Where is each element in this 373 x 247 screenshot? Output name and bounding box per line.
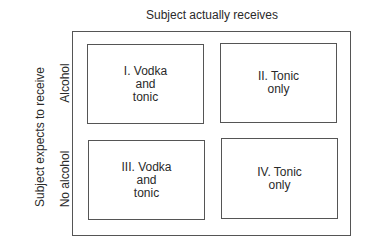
cell-II-tonic-only: II. Tonic only: [220, 43, 337, 123]
cell-III-vodka-and-tonic: III. Vodka and tonic: [88, 140, 205, 220]
row-label-alcohol: Alcohol: [58, 43, 72, 123]
row-axis-label: Subject expects to receive: [33, 57, 47, 217]
cell-I-vodka-and-tonic: I. Vodka and tonic: [87, 44, 204, 124]
column-axis-label: Subject actually receives: [72, 8, 352, 22]
cell-IV-tonic-only: IV. Tonic only: [221, 138, 338, 219]
row-label-no-alcohol: No alcohol: [58, 139, 72, 219]
